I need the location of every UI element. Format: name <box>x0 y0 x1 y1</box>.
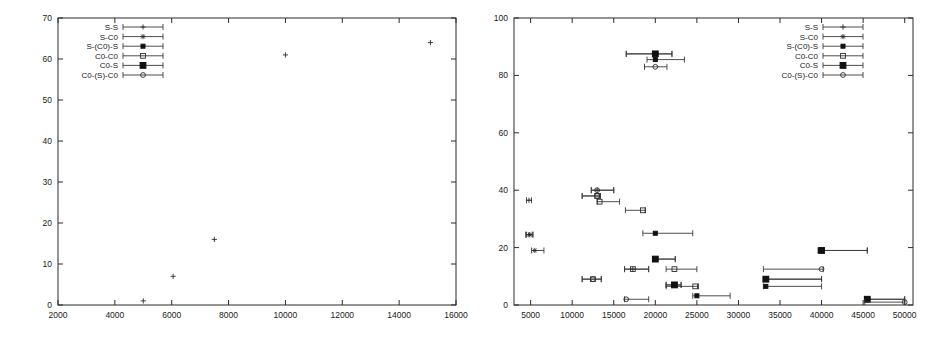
right-panel: 5000100001500020000250003000035000400004… <box>473 0 946 337</box>
data-group <box>526 51 907 305</box>
marker-square <box>653 58 657 62</box>
data-point <box>212 237 217 242</box>
data-point <box>819 248 825 254</box>
data-point <box>527 232 532 237</box>
y-tick-label: 0 <box>47 300 52 310</box>
marker-square <box>652 51 658 57</box>
data-point <box>532 248 537 253</box>
plot-frame <box>514 18 913 305</box>
marker-square <box>141 44 145 48</box>
x-tick-label: 16000 <box>444 310 468 320</box>
legend-label: S-S <box>105 23 118 32</box>
x-tick-label: 2000 <box>49 310 68 320</box>
data-point <box>672 282 678 288</box>
legend-marker-filled-square-small <box>141 44 145 48</box>
data-point <box>764 284 768 288</box>
data-point <box>652 51 658 57</box>
marker-square <box>672 282 678 288</box>
legend-marker-filled-square-small <box>841 44 845 48</box>
data-point <box>653 58 657 62</box>
legend-marker-plus <box>840 24 845 29</box>
legend-label: S-C0 <box>800 33 819 42</box>
y-tick-label: 40 <box>499 185 509 195</box>
legend-marker-plus <box>140 24 145 29</box>
axes-group: 5000100001500020000250003000035000400004… <box>494 13 917 320</box>
series-c0-s <box>626 51 904 302</box>
left-plot-canvas: 2000400060008000100001200014000160000102… <box>0 0 473 337</box>
y-tick-label: 40 <box>43 136 53 146</box>
y-tick-label: 70 <box>43 13 53 23</box>
y-tick-label: 0 <box>503 300 508 310</box>
x-tick-label: 45000 <box>851 310 875 320</box>
data-point <box>283 52 288 57</box>
x-tick-label: 15000 <box>602 310 626 320</box>
x-tick-label: 25000 <box>685 310 709 320</box>
legend-label: C0-C0 <box>795 52 819 61</box>
x-tick-label: 8000 <box>219 310 238 320</box>
right-plot-canvas: 5000100001500020000250003000035000400004… <box>473 0 946 337</box>
data-point <box>652 256 658 262</box>
legend: S-SS-C0S-(C0)-SC0-C0C0-SC0-(S)-C0 <box>82 23 163 80</box>
series-s-s <box>526 51 672 272</box>
left-panel: 2000400060008000100001200014000160000102… <box>0 0 473 337</box>
series-c0-c0 <box>582 193 698 289</box>
y-tick-label: 50 <box>43 95 53 105</box>
y-tick-label: 100 <box>494 13 508 23</box>
series-s-c0 <box>526 232 543 254</box>
data-point <box>864 296 870 302</box>
legend-label: C0-S <box>100 61 118 70</box>
marker-square <box>764 284 768 288</box>
legend-label: S-(C0)-S <box>786 42 818 51</box>
marker-square <box>763 276 769 282</box>
x-tick-label: 20000 <box>643 310 667 320</box>
x-tick-label: 10000 <box>560 310 584 320</box>
legend-marker-asterisk <box>140 34 145 39</box>
legend-label: S-S <box>805 23 818 32</box>
legend-label: C0-(S)-C0 <box>82 71 119 80</box>
x-tick-label: 30000 <box>727 310 751 320</box>
legend-marker-asterisk <box>840 34 845 39</box>
marker-square <box>652 256 658 262</box>
y-tick-label: 80 <box>499 70 509 80</box>
legend-marker-filled-square <box>140 63 146 69</box>
legend-label: S-C0 <box>100 33 119 42</box>
data-group <box>141 40 433 304</box>
legend-label: C0-C0 <box>95 52 119 61</box>
series-s-s <box>141 40 433 304</box>
legend-marker-filled-square <box>840 63 846 69</box>
y-tick-label: 20 <box>499 243 509 253</box>
x-tick-label: 50000 <box>893 310 917 320</box>
x-tick-label: 35000 <box>768 310 792 320</box>
marker-square <box>864 296 870 302</box>
x-tick-label: 6000 <box>162 310 181 320</box>
x-tick-label: 10000 <box>274 310 298 320</box>
x-tick-label: 40000 <box>810 310 834 320</box>
data-point <box>428 40 433 45</box>
marker-square <box>695 294 699 298</box>
marker-square <box>653 231 657 235</box>
series-s-c0-s <box>643 57 905 303</box>
y-tick-label: 10 <box>43 259 53 269</box>
x-tick-label: 12000 <box>330 310 354 320</box>
legend-label: C0-S <box>800 61 818 70</box>
data-point <box>653 231 657 235</box>
marker-square <box>841 44 845 48</box>
data-point <box>763 276 769 282</box>
legend-label: C0-(S)-C0 <box>782 71 819 80</box>
y-tick-label: 30 <box>43 177 53 187</box>
data-point <box>526 198 531 203</box>
y-tick-label: 20 <box>43 218 53 228</box>
data-point <box>695 294 699 298</box>
data-point <box>171 274 176 279</box>
y-tick-label: 60 <box>499 128 509 138</box>
marker-square <box>819 248 825 254</box>
figure-root: 2000400060008000100001200014000160000102… <box>0 0 946 337</box>
x-tick-label: 14000 <box>387 310 411 320</box>
marker-square <box>140 63 146 69</box>
legend-label: S-(C0)-S <box>86 42 118 51</box>
y-tick-label: 60 <box>43 54 53 64</box>
x-tick-label: 5000 <box>521 310 540 320</box>
marker-square <box>840 63 846 69</box>
data-point <box>141 298 146 303</box>
legend: S-SS-C0S-(C0)-SC0-C0C0-SC0-(S)-C0 <box>782 23 863 80</box>
